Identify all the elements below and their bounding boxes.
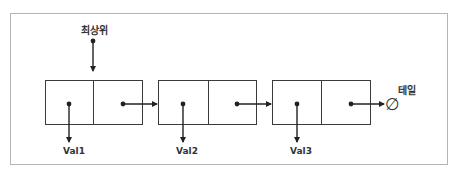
null-terminator-icon: ∅ — [385, 95, 400, 113]
next-pointer-arrow-3 — [349, 102, 384, 107]
tail-label: 테일 — [398, 86, 416, 96]
value-label-2: Val2 — [176, 146, 198, 156]
value-pointer-arrow-1 — [67, 102, 72, 142]
next-pointer-arrow-1 — [121, 102, 157, 107]
value-label-1: Val1 — [63, 146, 85, 156]
value-pointer-arrow-2 — [181, 102, 186, 142]
cropped-caption-fragment — [100, 171, 380, 177]
head-pointer-arrow — [91, 39, 96, 71]
next-pointer-arrow-2 — [235, 102, 271, 107]
head-label: 최상위 — [81, 26, 108, 36]
value-pointer-arrow-3 — [295, 102, 300, 142]
value-label-3: Val3 — [290, 146, 312, 156]
